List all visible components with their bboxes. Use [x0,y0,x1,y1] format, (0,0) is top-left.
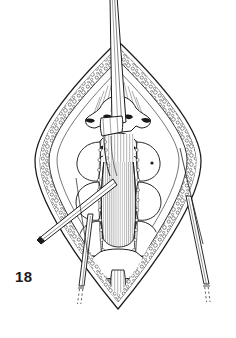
surgical-illustration [0,0,236,338]
vessel-dot [150,161,153,164]
figure-page: 18 [0,0,236,338]
figure-number: 18 [15,269,32,284]
